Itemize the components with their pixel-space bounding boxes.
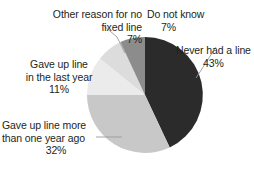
slice-label-percent: 32% [2,144,110,157]
slice-label-other-reason-no-fixed-line: Other reason for no fixed line 7% [2,8,142,46]
slice-label-line2: than one year ago [2,132,110,145]
slice-label-gave-up-more-than-one-year: Gave up line more than one year ago 32% [2,119,110,157]
pie-chart: Other reason for no fixed line 7% Do not… [0,0,254,182]
slice-label-line1: Other reason for no [2,8,142,21]
slice-label-percent: 43% [176,57,251,70]
slice-label-never-had-a-line: Never had a line 43% [176,44,251,69]
slice-label-line1: Do not know [147,8,204,21]
slice-label-line2: fixed line [2,21,142,34]
slice-label-line1: Never had a line [176,44,251,57]
slice-label-percent: 7% [2,33,142,46]
slice-label-line2: in the last year [6,71,112,84]
slice-label-line1: Gave up line more [2,119,110,132]
slice-label-percent: 7% [147,21,204,34]
slice-label-percent: 11% [6,83,112,96]
slice-label-gave-up-last-year: Gave up line in the last year 11% [6,58,112,96]
slice-label-do-not-know: Do not know 7% [147,8,204,33]
slice-label-line1: Gave up line [6,58,112,71]
